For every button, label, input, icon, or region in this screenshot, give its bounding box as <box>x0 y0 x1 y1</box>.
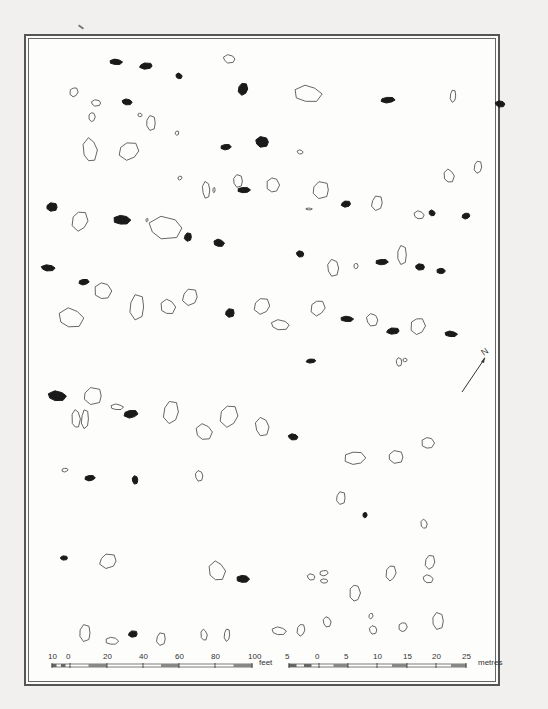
filled-stone <box>363 513 367 518</box>
scale-tick-label: 10 <box>373 653 382 661</box>
outline-stone <box>175 131 179 135</box>
outline-stone <box>311 301 325 316</box>
outline-stone <box>345 452 366 464</box>
outline-stone <box>84 388 101 405</box>
filled-stone <box>306 359 316 363</box>
filled-stone <box>79 280 89 286</box>
outline-stone <box>450 90 456 102</box>
filled-stone <box>132 476 138 484</box>
outline-stone <box>146 218 148 222</box>
scale-tick-label: 40 <box>139 653 148 661</box>
svg-text:N: N <box>479 346 490 358</box>
outline-stone <box>234 175 243 188</box>
outline-stone <box>178 176 182 180</box>
outline-stone <box>138 113 142 116</box>
scale-metres-unit: metres <box>478 659 502 667</box>
filled-stone <box>238 83 248 95</box>
filled-stone <box>387 328 400 334</box>
north-arrow-icon: N <box>462 346 490 392</box>
scale-bar-feet <box>52 663 252 668</box>
outline-stone <box>423 575 433 583</box>
filled-stone <box>176 73 182 79</box>
outline-stone <box>306 208 312 210</box>
filled-stones <box>41 59 505 637</box>
filled-stone <box>238 188 250 193</box>
scale-tick-label: 15 <box>403 653 412 661</box>
outline-stone <box>372 196 383 211</box>
outline-stone <box>161 299 176 313</box>
outline-stone <box>72 212 88 231</box>
outline-stone <box>337 492 345 505</box>
outline-stone <box>403 358 407 361</box>
outline-stone <box>444 169 454 182</box>
outline-stone <box>157 633 166 646</box>
filled-stone <box>416 264 425 270</box>
scale-feet-unit: feet <box>259 659 272 667</box>
filled-stone <box>129 631 138 637</box>
outline-stone <box>59 308 84 327</box>
outline-stone <box>414 211 424 219</box>
outline-stone <box>223 55 235 63</box>
filled-stone <box>445 331 457 337</box>
outline-stone <box>313 182 328 199</box>
outline-stone <box>386 566 396 581</box>
filled-stone <box>214 239 225 246</box>
outline-stone <box>183 289 198 305</box>
outline-stone <box>106 637 119 644</box>
filled-stone <box>381 97 395 103</box>
filled-stone <box>124 411 138 419</box>
outline-stone <box>72 410 80 427</box>
outline-stone <box>399 623 407 632</box>
outline-stone <box>425 556 435 570</box>
outline-stone <box>196 424 212 440</box>
scale-tick-label: 0 <box>66 653 70 661</box>
scale-tick-label: 10 <box>48 653 57 661</box>
filled-stone <box>61 556 68 560</box>
outline-stone <box>62 468 68 472</box>
outline-stone <box>350 585 360 601</box>
outline-stone <box>323 617 331 627</box>
site-plan: N <box>0 0 548 709</box>
outline-stone <box>271 320 289 330</box>
outline-stone <box>149 216 182 239</box>
outline-stone <box>389 451 403 464</box>
outline-stone <box>89 113 95 122</box>
filled-stone <box>256 137 269 148</box>
outline-stone <box>328 259 339 276</box>
scale-tick-label: 20 <box>432 653 441 661</box>
outline-stones <box>59 55 482 646</box>
filled-stone <box>341 201 350 207</box>
outline-stone <box>354 264 358 269</box>
outline-stone <box>321 579 328 583</box>
outline-stone <box>147 116 155 131</box>
outline-stone <box>195 471 202 482</box>
filled-stone <box>47 203 57 211</box>
filled-stone <box>140 63 153 69</box>
outline-stone <box>201 629 207 640</box>
outline-stone <box>119 143 139 160</box>
scale-tick-label: 80 <box>211 653 220 661</box>
filled-stone <box>429 210 435 216</box>
filled-stone <box>221 145 231 150</box>
filled-stone <box>41 265 55 271</box>
outline-stone <box>95 283 112 299</box>
scale-tick-label: 5 <box>344 653 348 661</box>
outline-stone <box>369 614 373 620</box>
filled-stone <box>85 476 95 481</box>
filled-stone <box>341 316 354 321</box>
filled-stone <box>114 215 131 224</box>
outline-stone <box>83 138 97 161</box>
outline-stone <box>307 574 315 580</box>
outline-stone <box>163 402 178 424</box>
scale-tick-label: 60 <box>175 653 184 661</box>
scale-tick-label: 0 <box>315 653 319 661</box>
outline-stone <box>70 88 78 97</box>
filled-stone <box>184 233 191 241</box>
outline-stone <box>81 410 88 429</box>
outline-stone <box>398 246 407 265</box>
outline-stone <box>474 161 482 173</box>
outline-stone <box>367 314 378 326</box>
filled-stone <box>122 99 132 105</box>
outline-stone <box>421 519 427 528</box>
filled-stone <box>288 434 298 440</box>
